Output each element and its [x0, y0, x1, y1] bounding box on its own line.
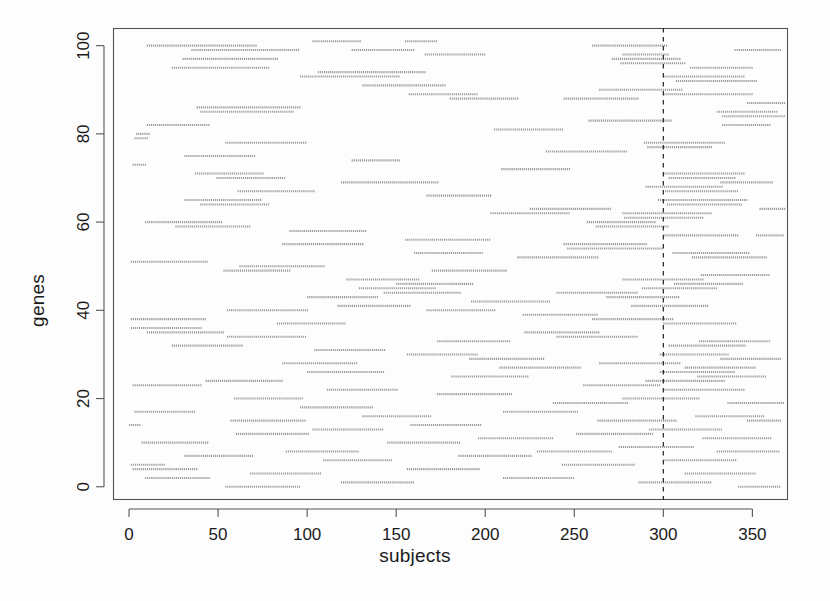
x-tick-label: 100: [293, 525, 321, 544]
y-axis-title: genes: [18, 0, 58, 601]
x-tick-label: 300: [649, 525, 677, 544]
y-tick-label: 80: [74, 124, 93, 143]
x-tick-label: 250: [560, 525, 588, 544]
x-tick-label: 0: [124, 525, 133, 544]
y-tick-label: 100: [74, 31, 93, 59]
y-tick-label: 0: [74, 482, 93, 491]
x-tick-label: 200: [471, 525, 499, 544]
x-tick-label: 150: [382, 525, 410, 544]
x-tick-label: 50: [209, 525, 228, 544]
figure-canvas: 050100150200250300350 020406080100 subje…: [0, 0, 830, 601]
x-axis-title: subjects: [0, 545, 830, 567]
y-tick-label: 60: [74, 213, 93, 232]
x-tick-label: 350: [738, 525, 766, 544]
y-tick-label: 40: [74, 301, 93, 320]
plot-background: [0, 0, 830, 601]
scatter-plot: 050100150200250300350 020406080100: [0, 0, 830, 601]
y-tick-label: 20: [74, 389, 93, 408]
